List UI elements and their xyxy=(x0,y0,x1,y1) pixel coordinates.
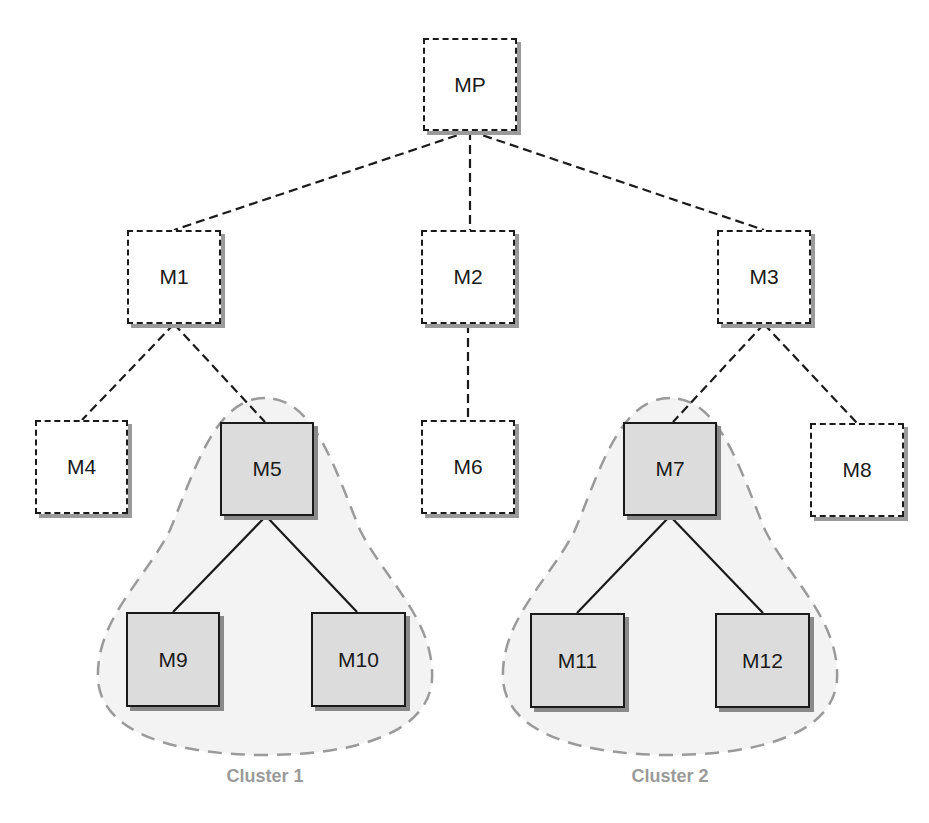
node-m10[interactable]: M10 xyxy=(311,612,406,707)
node-label: M5 xyxy=(252,457,281,481)
edge-m3-m7 xyxy=(673,324,764,422)
node-label: M7 xyxy=(655,457,684,481)
node-label: M2 xyxy=(453,265,482,289)
node-label: M10 xyxy=(338,648,379,672)
node-m12[interactable]: M12 xyxy=(715,613,810,708)
node-label: M8 xyxy=(842,458,871,482)
edge-m3-m8 xyxy=(764,324,857,423)
node-m1[interactable]: M1 xyxy=(127,230,221,324)
node-label: M9 xyxy=(158,648,187,672)
node-mp[interactable]: MP xyxy=(423,38,517,131)
node-label: M1 xyxy=(159,265,188,289)
edge-mp-m1 xyxy=(174,131,470,230)
node-label: M12 xyxy=(742,649,783,673)
node-m4[interactable]: M4 xyxy=(35,420,128,514)
node-m3[interactable]: M3 xyxy=(717,230,811,324)
cluster-2-label: Cluster 2 xyxy=(590,766,750,787)
node-label: M6 xyxy=(453,455,482,479)
node-m9[interactable]: M9 xyxy=(126,612,220,707)
node-label: MP xyxy=(454,73,486,97)
node-m2[interactable]: M2 xyxy=(421,230,515,324)
cluster-1-label: Cluster 1 xyxy=(185,766,345,787)
edge-m1-m5 xyxy=(174,324,265,422)
node-label: M11 xyxy=(558,649,597,673)
edge-mp-m3 xyxy=(470,131,764,230)
node-m8[interactable]: M8 xyxy=(810,423,904,517)
node-m7[interactable]: M7 xyxy=(623,422,717,516)
node-label: M3 xyxy=(749,265,778,289)
edge-m1-m4 xyxy=(82,324,174,420)
node-m6[interactable]: M6 xyxy=(421,420,515,514)
node-label: M4 xyxy=(67,455,96,479)
node-m11[interactable]: M11 xyxy=(530,613,625,708)
node-m5[interactable]: M5 xyxy=(220,422,314,516)
